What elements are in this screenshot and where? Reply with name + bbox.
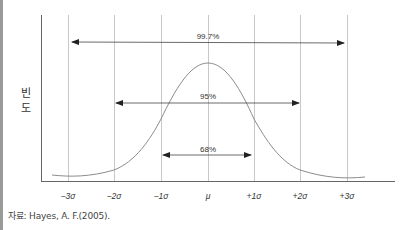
tick-plus2sigma: +2σ <box>293 191 309 201</box>
tick-minus1sigma: −1σ <box>154 191 170 201</box>
tick-mu: μ <box>205 191 211 201</box>
y-axis-label-char2: 도 <box>21 99 31 115</box>
tick-minus3sigma: −3σ <box>61 191 77 201</box>
normal-distribution-chart: 99.7% 95% 68% −3σ −2σ −1σ μ +1σ +2σ +3σ <box>0 0 409 230</box>
y-axis-label-char1: 빈 <box>21 84 31 100</box>
tick-plus1sigma: +1σ <box>247 191 263 201</box>
interval-997-label: 99.7% <box>197 32 220 41</box>
tick-plus3sigma: +3σ <box>340 191 356 201</box>
interval-95-label: 95% <box>200 92 216 101</box>
interval-997-arrow <box>72 42 344 43</box>
x-tick-labels: −3σ −2σ −1σ μ +1σ +2σ +3σ <box>61 191 356 201</box>
tick-minus2sigma: −2σ <box>107 191 123 201</box>
source-citation: 자료: Hayes, A. F.(2005). <box>8 209 110 222</box>
interval-68-label: 68% <box>200 145 216 154</box>
